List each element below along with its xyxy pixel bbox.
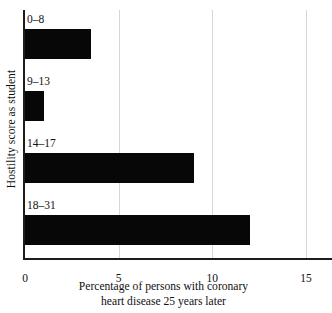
gridline-15 (306, 10, 307, 258)
bar (25, 91, 44, 121)
bar-category-label: 9–13 (27, 75, 50, 88)
bar-category-label: 14–17 (27, 137, 56, 150)
x-axis-title: Percentage of persons with coronary hear… (0, 279, 327, 309)
bar-category-label: 18–31 (27, 199, 56, 212)
bar (25, 153, 194, 183)
x-axis-spine (23, 258, 332, 260)
y-axis-title: Hostility score as student (0, 0, 22, 258)
y-axis-title-text: Hostility score as student (5, 70, 17, 189)
x-axis-title-line2: heart disease 25 years later (0, 294, 327, 309)
bar (25, 29, 91, 59)
plot-area: 0–89–1314–1718–31 051015 (25, 10, 306, 258)
x-axis-title-line1: Percentage of persons with coronary (0, 279, 327, 294)
bar-category-label: 0–8 (27, 13, 44, 26)
bar (25, 215, 250, 245)
